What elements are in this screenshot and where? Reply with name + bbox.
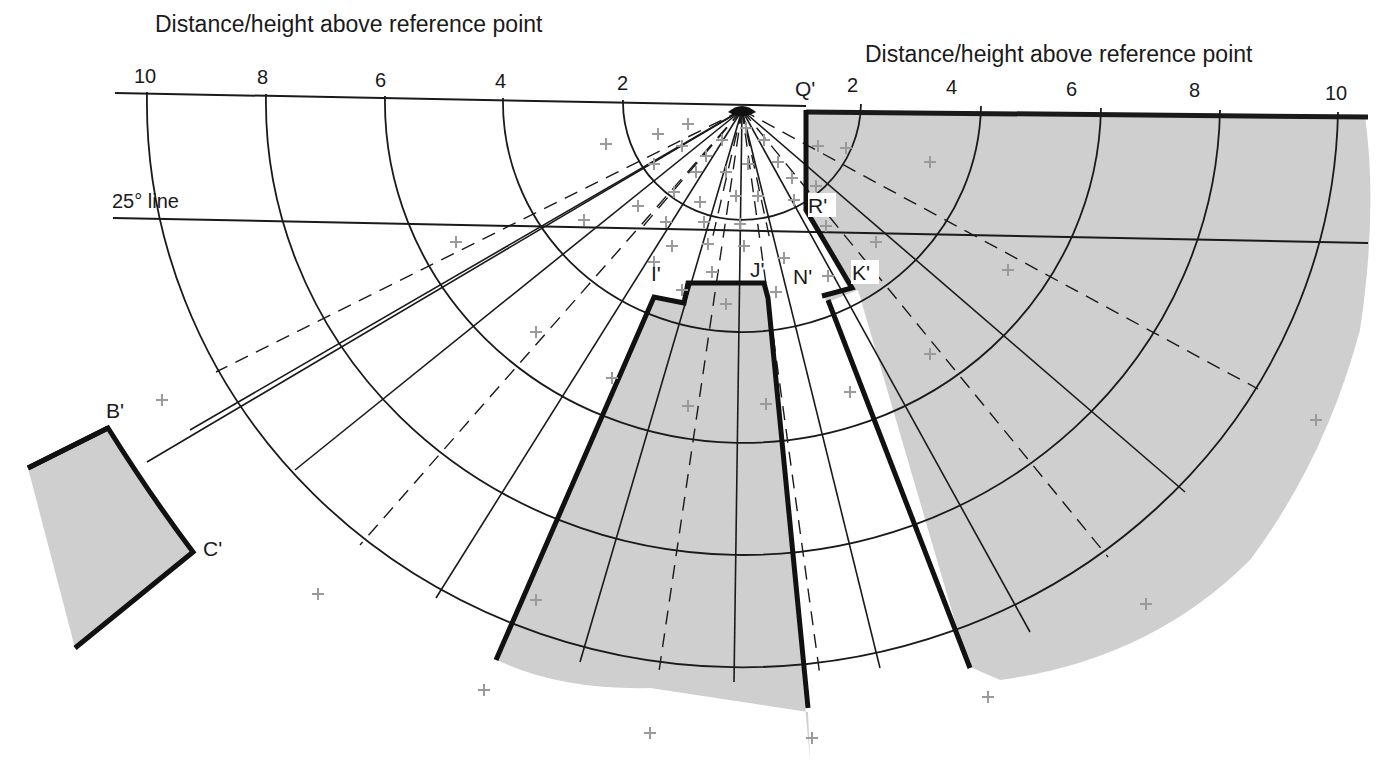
point-label-j: J' — [750, 258, 765, 281]
cross-marker — [450, 236, 462, 248]
cross-marker — [786, 172, 798, 184]
tick-right-6: 6 — [1066, 78, 1077, 100]
cross-marker — [694, 196, 706, 208]
tick-right-10: 10 — [1325, 82, 1347, 104]
point-label-k: K' — [852, 261, 870, 284]
25-degree-line-label: 25° line — [112, 190, 179, 212]
point-label-q: Q' — [795, 77, 815, 100]
cross-marker — [478, 684, 490, 696]
top-axis-line — [115, 93, 806, 106]
tick-left-8: 8 — [257, 66, 268, 88]
cross-marker — [758, 134, 770, 146]
cross-marker — [660, 216, 672, 228]
cross-marker — [632, 200, 644, 212]
polar-grid-diagram: Distance/height above reference point Di… — [0, 0, 1395, 762]
point-label-b: B' — [106, 399, 124, 422]
cross-marker — [844, 386, 856, 398]
tick-left-4: 4 — [495, 70, 506, 92]
cross-marker — [706, 266, 718, 278]
axis-title-left: Distance/height above reference point — [155, 11, 543, 37]
point-label-n: N' — [793, 265, 812, 288]
cross-marker — [666, 240, 678, 252]
point-label-c: C' — [203, 537, 222, 560]
point-label-i: I' — [651, 262, 661, 285]
shaded-bc-zone — [28, 428, 193, 648]
cross-marker — [770, 286, 782, 298]
cross-marker — [578, 214, 590, 226]
tick-right-8: 8 — [1189, 79, 1200, 101]
cross-marker — [312, 588, 324, 600]
axis-title-right: Distance/height above reference point — [865, 41, 1253, 67]
tick-left-10: 10 — [134, 65, 156, 87]
cross-marker — [982, 691, 994, 703]
tick-right-4: 4 — [946, 76, 957, 98]
shaded-center-zone — [497, 282, 810, 760]
cross-marker — [530, 326, 542, 338]
cross-marker — [600, 138, 612, 150]
cross-marker — [156, 394, 168, 406]
cross-marker — [652, 128, 664, 140]
point-label-r: R' — [808, 194, 827, 217]
shaded-right-zone — [806, 112, 1370, 680]
cross-marker — [644, 727, 656, 739]
tick-left-6: 6 — [375, 69, 386, 91]
cross-marker — [682, 118, 694, 130]
cross-marker — [822, 270, 834, 282]
tick-left-2: 2 — [617, 72, 628, 94]
tick-right-2: 2 — [847, 74, 858, 96]
shaded-regions — [28, 112, 1370, 760]
